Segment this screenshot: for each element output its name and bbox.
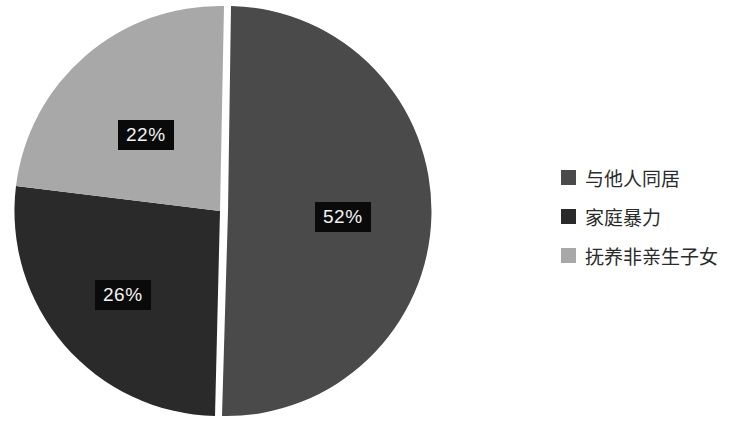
pie-label-non-biological-children: 22% — [118, 120, 174, 150]
square-swatch-icon — [561, 248, 576, 263]
legend-item-cohabitation: 与他人同居 — [561, 158, 739, 197]
legend-label-non-biological-children: 抚养非亲生子女 — [585, 242, 718, 269]
legend-label-cohabitation: 与他人同居 — [585, 164, 680, 191]
square-swatch-icon — [561, 170, 576, 185]
legend-label-domestic-violence: 家庭暴力 — [585, 203, 661, 230]
pie-graphic — [0, 0, 460, 422]
legend-item-domestic-violence: 家庭暴力 — [561, 197, 739, 236]
legend-item-non-biological-children: 抚养非亲生子女 — [561, 236, 739, 275]
square-swatch-icon — [561, 209, 576, 224]
pie-label-cohabitation: 52% — [315, 202, 371, 232]
pie-slice-non-biological-children — [16, 6, 224, 211]
pie-label-domestic-violence: 26% — [95, 280, 151, 310]
pie-chart: 52% 26% 22% 与他人同居 家庭暴力 抚养非亲生子女 — [0, 0, 739, 422]
chart-legend: 与他人同居 家庭暴力 抚养非亲生子女 — [561, 158, 739, 275]
